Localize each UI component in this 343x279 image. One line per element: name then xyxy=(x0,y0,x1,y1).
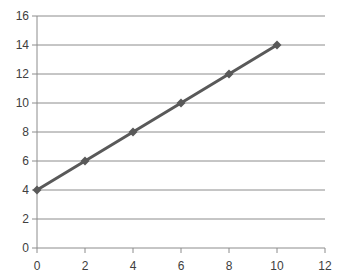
data-series xyxy=(33,41,282,195)
y-tick-label: 0 xyxy=(22,241,29,255)
x-tick-label: 0 xyxy=(34,259,41,273)
x-tick-label: 10 xyxy=(270,259,284,273)
x-tick-label: 4 xyxy=(130,259,137,273)
y-tick-label: 4 xyxy=(22,183,29,197)
horizontal-gridlines xyxy=(37,16,325,219)
y-tick-label: 6 xyxy=(22,154,29,168)
series-line xyxy=(37,45,277,190)
y-tick-label: 2 xyxy=(22,212,29,226)
y-tick-label: 8 xyxy=(22,125,29,139)
y-tick-label: 16 xyxy=(16,9,30,23)
y-axis-tick-labels: 0246810121416 xyxy=(16,9,30,255)
y-tick-label: 12 xyxy=(16,67,30,81)
x-tick-label: 6 xyxy=(178,259,185,273)
x-tick-label: 12 xyxy=(318,259,332,273)
y-tick-label: 14 xyxy=(16,38,30,52)
line-chart: 0246810121416 024681012 xyxy=(0,0,343,279)
x-tick-label: 8 xyxy=(226,259,233,273)
x-axis-tick-labels: 024681012 xyxy=(34,259,332,273)
y-tick-label: 10 xyxy=(16,96,30,110)
x-tick-label: 2 xyxy=(82,259,89,273)
axes xyxy=(32,16,325,253)
